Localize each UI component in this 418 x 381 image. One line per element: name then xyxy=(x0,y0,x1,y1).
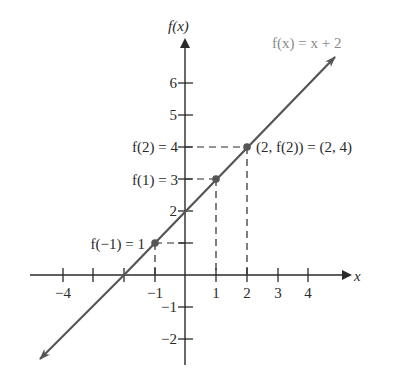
function-line-lower xyxy=(40,275,124,359)
tick-label-ym1: −1 xyxy=(161,299,177,315)
label-fm1: f(−1) = 1 xyxy=(91,236,145,253)
x-axis-label: x xyxy=(353,268,361,284)
point-neg1-1 xyxy=(151,239,159,247)
tick-label-xm4: −4 xyxy=(55,285,71,301)
tick-label-xm1: −1 xyxy=(147,285,163,301)
tick-label-y2: 2 xyxy=(170,203,178,219)
point-2-4 xyxy=(243,143,251,151)
function-graph: f(x) x f(x) = x + 2 (2, f(2)) = (2, 4) f… xyxy=(0,0,418,381)
tick-label-x1: 1 xyxy=(212,285,220,301)
tick-label-x4: 4 xyxy=(304,285,312,301)
tick-label-x3: 3 xyxy=(274,285,282,301)
label-f2: f(2) = 4 xyxy=(132,139,178,156)
tick-label-x2: 2 xyxy=(243,285,251,301)
tick-label-y6: 6 xyxy=(170,75,178,91)
function-label: f(x) = x + 2 xyxy=(272,35,341,52)
point-1-3 xyxy=(212,175,220,183)
tick-label-y5: 5 xyxy=(170,107,178,123)
y-axis-label: f(x) xyxy=(168,18,189,35)
tick-label-ym2: −2 xyxy=(161,331,177,347)
point-annotation: (2, f(2)) = (2, 4) xyxy=(256,139,352,156)
label-f1: f(1) = 3 xyxy=(132,172,178,189)
